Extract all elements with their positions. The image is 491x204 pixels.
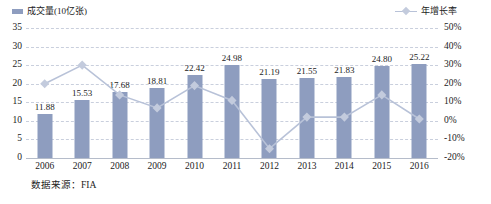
y-axis-right-tick: 50% [444, 23, 488, 33]
growth-rate-line [45, 65, 420, 149]
y-axis-left-tick: 35 [4, 23, 22, 33]
x-axis-tick: 2015 [363, 161, 400, 172]
growth-rate-marker [40, 79, 49, 88]
x-axis-tick: 2012 [251, 161, 288, 172]
legend-item-growth: 年增长率 [395, 6, 457, 16]
y-axis-right-tick: 40% [444, 42, 488, 52]
growth-rate-marker [340, 113, 349, 122]
y-axis-right-tick: 30% [444, 60, 488, 70]
source-note: 数据来源：FIA [31, 180, 96, 191]
legend-item-volume: 成交量(10亿张) [12, 6, 87, 16]
y-axis-right-tick: -20% [444, 153, 488, 163]
x-axis-tick: 2006 [26, 161, 63, 172]
y-axis-left-tick: 30 [4, 42, 22, 52]
x-axis-tick: 2013 [288, 161, 325, 172]
growth-rate-marker [190, 81, 199, 90]
plot-area: 11.8815.5317.6818.8122.4224.9821.1921.55… [26, 28, 438, 158]
y-axis-right-tick: 10% [444, 97, 488, 107]
x-axis-tick: 2014 [326, 161, 363, 172]
x-axis-tick: 2009 [138, 161, 175, 172]
chart-legend: 成交量(10亿张) 年增长率 [0, 4, 491, 20]
growth-rate-line-series [26, 28, 438, 158]
y-axis-right-tick: 0% [444, 116, 488, 126]
x-axis-tick: 2011 [213, 161, 250, 172]
gridline [26, 158, 438, 159]
y-axis-left-tick: 25 [4, 60, 22, 70]
y-axis-left-tick: 5 [4, 134, 22, 144]
y-axis-left-tick: 0 [4, 153, 22, 163]
legend-label-volume: 成交量(10亿张) [27, 6, 87, 16]
y-axis-right-tick: -10% [444, 134, 488, 144]
x-axis-tick: 2016 [401, 161, 438, 172]
x-axis-tick: 2010 [176, 161, 213, 172]
x-axis-tick: 2007 [63, 161, 100, 172]
y-axis-left-tick: 20 [4, 79, 22, 89]
x-axis-tick: 2008 [101, 161, 138, 172]
x-axis-labels: 2006200720082009201020112012201320142015… [26, 161, 438, 175]
growth-rate-marker [415, 114, 424, 123]
growth-rate-marker [153, 103, 162, 112]
legend-line-marker-icon [395, 7, 417, 15]
y-axis-left-tick: 10 [4, 116, 22, 126]
growth-rate-marker [377, 90, 386, 99]
y-axis-right-tick: 20% [444, 79, 488, 89]
chart-container: 成交量(10亿张) 年增长率 05101520253035 -20%-10%0%… [0, 0, 491, 204]
legend-square-icon [12, 9, 23, 14]
y-axis-left-tick: 15 [4, 97, 22, 107]
legend-label-growth: 年增长率 [421, 6, 457, 16]
